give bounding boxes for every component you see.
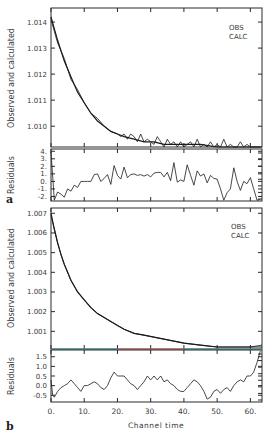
y-tick-label: 1.005 bbox=[27, 249, 47, 257]
panel-b-residuals: -0.50.00.51.01.50.10.20.30.40.50.60. bbox=[33, 350, 262, 416]
x-tick-label: 0. bbox=[47, 407, 54, 416]
y-tick-label: 1.5 bbox=[36, 353, 47, 361]
y-tick-label: 1.007 bbox=[27, 210, 47, 218]
y-tick-label: 0. bbox=[40, 178, 47, 186]
y-tick-label: 1.0 bbox=[36, 363, 47, 371]
figure: 1.0101.0111.0121.0131.014-2.-1.0.1.2.3.4… bbox=[0, 0, 276, 434]
y-tick-label: 1.004 bbox=[27, 269, 48, 277]
panel-b: 1.0011.0021.0031.0041.0051.0061.007 bbox=[27, 208, 262, 349]
x-tick-label: 30. bbox=[145, 407, 157, 416]
panel-a-resid-ylabel: Residuals bbox=[7, 156, 16, 194]
x-tick-label: 10. bbox=[78, 407, 90, 416]
y-tick-label: 1.010 bbox=[27, 123, 47, 131]
y-tick-label: 1.001 bbox=[27, 328, 47, 336]
y-tick-label: 1.014 bbox=[27, 19, 48, 27]
panel-a-ylabel: Observed and calculated bbox=[7, 28, 16, 128]
y-tick-label: 1.011 bbox=[27, 97, 47, 105]
y-tick-label: -2. bbox=[38, 193, 47, 201]
x-tick-label: 20. bbox=[111, 407, 123, 416]
legend-calc-a: CALC bbox=[229, 33, 248, 41]
y-tick-label: 1.012 bbox=[27, 71, 47, 79]
y-tick-label: 0.5 bbox=[36, 373, 47, 381]
y-tick-label: 0.0 bbox=[36, 382, 47, 390]
x-tick-label: 50. bbox=[211, 407, 223, 416]
y-tick-label: -1. bbox=[38, 185, 47, 193]
series-residuals bbox=[51, 152, 260, 200]
legend-calc-b: CALC bbox=[231, 232, 250, 240]
y-tick-label: 3. bbox=[40, 155, 47, 163]
panel-a-letter: a bbox=[6, 193, 13, 206]
y-tick-label: 1.002 bbox=[27, 308, 47, 316]
x-axis-label: Channel time bbox=[128, 421, 184, 430]
y-tick-label: 2. bbox=[40, 163, 47, 171]
plot-frame bbox=[51, 350, 262, 402]
y-tick-label: -0.5 bbox=[33, 392, 47, 400]
y-tick-label: 4. bbox=[40, 148, 47, 156]
plot-frame bbox=[51, 149, 262, 201]
y-tick-label: 1. bbox=[40, 170, 47, 178]
series-residuals bbox=[51, 351, 260, 399]
legend-obs-a: OBS bbox=[229, 24, 244, 32]
y-tick-label: 1.003 bbox=[27, 288, 47, 296]
panel-a: 1.0101.0111.0121.0131.014 bbox=[27, 8, 262, 147]
panel-b-letter: b bbox=[6, 420, 14, 433]
panel-b-ylabel: Observed and calculated bbox=[7, 228, 16, 328]
x-tick-label: 60. bbox=[244, 407, 256, 416]
y-tick-label: 1.006 bbox=[27, 229, 48, 237]
x-tick-label: 40. bbox=[178, 407, 190, 416]
legend-obs-b: OBS bbox=[231, 223, 246, 231]
panel-b-resid-ylabel: Residuals bbox=[7, 357, 16, 395]
panel-a-residuals: -2.-1.0.1.2.3.4. bbox=[38, 148, 262, 201]
y-tick-label: 1.013 bbox=[27, 45, 47, 53]
